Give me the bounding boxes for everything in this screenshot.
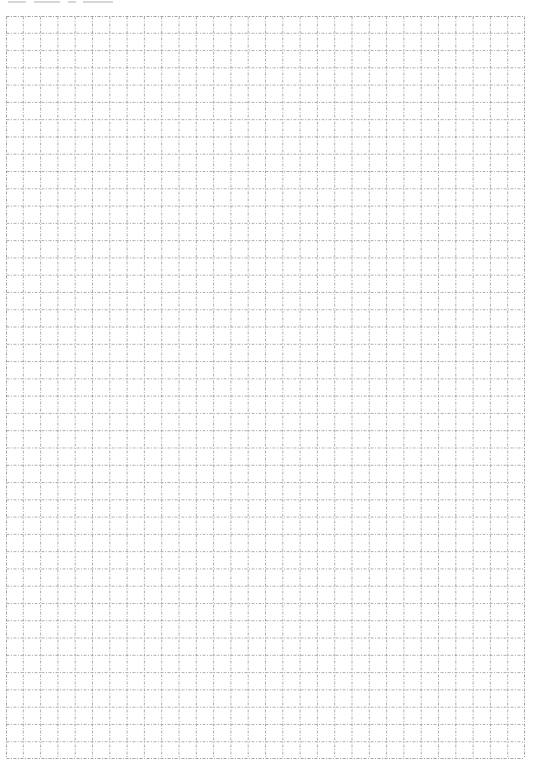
header-fragment — [34, 1, 60, 3]
header-fragment — [68, 1, 76, 3]
header-fragment — [83, 1, 113, 3]
header-fragment — [8, 1, 26, 3]
grid-lines — [6, 16, 525, 759]
graph-paper-grid — [6, 16, 525, 759]
clipped-page-header — [8, 0, 128, 3]
